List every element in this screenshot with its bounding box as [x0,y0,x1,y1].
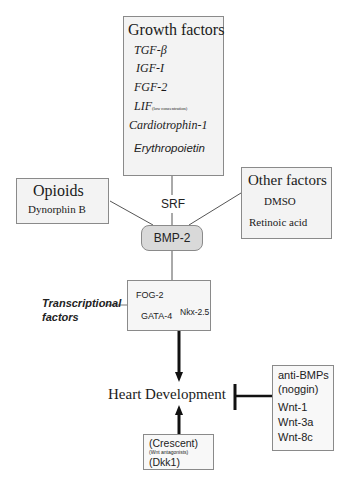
growth-factor-item: TGF-β [134,43,167,58]
inhibitor-item: (noggin) [278,383,318,395]
transcription-factors-box: FOG-2 GATA-4 Nkx-2.5 [127,280,211,331]
opioids-box: Opioids Dynorphin B [16,178,109,224]
other-factors-title: Other factors [248,172,327,189]
other-factor-item: DMSO [264,195,296,207]
bmp2-label: BMP-2 [154,231,191,245]
inhibitor-item: Wnt-8c [278,431,313,443]
growth-factor-item: Erythropoietin [134,142,205,154]
other-factor-item: Retinoic acid [249,216,307,228]
growth-factor-item: LIF(low concentration) [134,99,187,114]
growth-factor-lif: LIF [134,99,152,113]
growth-factor-item: FGF-2 [134,80,167,95]
other-factors-box: Other factors DMSO Retinoic acid [241,167,332,239]
transcriptional-label-line1: Transcriptional [42,296,121,310]
transcription-item-gata4: GATA-4 [141,311,172,321]
growth-factor-item: Cardiotrophin-1 [129,118,207,133]
inhibitor-item: anti-BMPs [278,369,329,381]
heart-development-label: Heart Development [108,386,226,403]
crescent-line1: (Crescent) [149,437,198,449]
crescent-line3: (Dkk1) [149,456,180,468]
opioid-item: Dynorphin B [28,203,86,215]
transcription-item-nkx25: Nkx-2.5 [180,307,209,317]
bmp2-node: BMP-2 [141,225,203,251]
crescent-box: (Crescent) (Wnt antagonists) (Dkk1) [143,434,214,470]
opioids-title: Opioids [33,182,84,200]
transcription-item-fog2: FOG-2 [136,290,164,300]
lif-note: (low concentration) [152,106,187,111]
srf-label: SRF [161,197,185,211]
inhibitors-box: anti-BMPs (noggin) Wnt-1 Wnt-3a Wnt-8c [272,365,334,451]
inhibitor-item: Wnt-1 [278,401,307,413]
growth-factor-item: IGF-I [136,61,164,76]
transcriptional-label: Transcriptional factors [42,296,121,324]
inhibitor-item: Wnt-3a [278,416,313,428]
growth-factors-box: Growth factors TGF-β IGF-I FGF-2 LIF(low… [123,16,224,176]
growth-factors-title: Growth factors [128,21,224,39]
transcriptional-label-line2: factors [42,310,121,324]
crescent-line2: (Wnt antagonists) [149,449,188,455]
